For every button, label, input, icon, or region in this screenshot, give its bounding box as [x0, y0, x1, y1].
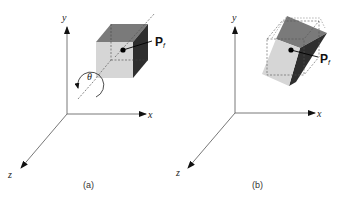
rotation-diagram: y x z Pf θ (a)	[0, 0, 343, 201]
z-axis-label: z	[7, 169, 12, 180]
caption-b: (b)	[252, 180, 263, 190]
y-axis-label: y	[61, 12, 67, 23]
z-axis	[21, 114, 67, 168]
x-axis-label: x	[147, 109, 153, 120]
panel-b: y x z Pf (b)	[175, 12, 331, 190]
y-axis-label: y	[231, 12, 237, 23]
x-axis-label: x	[316, 108, 322, 119]
point-label: Pf	[155, 35, 166, 49]
z-axis	[188, 113, 235, 168]
z-axis-label: z	[175, 167, 180, 178]
caption-a: (a)	[83, 180, 94, 190]
point-label: Pf	[320, 52, 331, 66]
panel-a: y x z Pf θ (a)	[7, 12, 166, 190]
theta-label: θ	[87, 71, 92, 82]
